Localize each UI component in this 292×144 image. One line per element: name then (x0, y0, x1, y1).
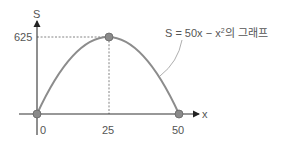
x-tick-50: 50 (172, 124, 184, 136)
vertex-point (105, 33, 113, 41)
x-tick-0: 0 (40, 124, 46, 136)
y-axis-label: S (33, 8, 40, 20)
curve-label: S = 50x − x2의 그래프 (165, 24, 268, 40)
curve-label-equation: S = 50x − x (165, 27, 221, 39)
origin-point (33, 110, 41, 118)
x-tick-25: 25 (102, 124, 114, 136)
parabola-curve (37, 37, 179, 114)
x-axis-label: x (202, 108, 208, 120)
y-tick-625: 625 (14, 31, 32, 43)
curve-label-leader-line (160, 40, 182, 76)
curve-label-suffix: 의 그래프 (225, 27, 268, 39)
right-root-point (175, 110, 183, 118)
parabola-graph: S x 625 0 25 50 (0, 0, 292, 144)
